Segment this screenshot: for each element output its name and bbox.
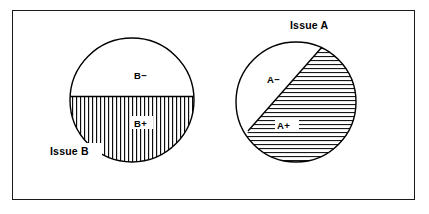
caption-issue-b: Issue B	[50, 145, 89, 157]
label-a-minus: A−	[267, 74, 280, 85]
label-b-minus: B−	[134, 70, 147, 81]
chart-issue-a: A− A+ Issue A	[236, 17, 400, 180]
caption-issue-a: Issue A	[290, 19, 329, 31]
label-a-plus: A+	[277, 120, 290, 131]
venn-diagram: B− B+ Issue B A− A+	[0, 0, 429, 214]
figure-container: B− B+ Issue B A− A+	[0, 0, 429, 214]
chart-issue-b: B− B+ Issue B	[48, 38, 198, 167]
label-b-plus: B+	[134, 118, 147, 129]
